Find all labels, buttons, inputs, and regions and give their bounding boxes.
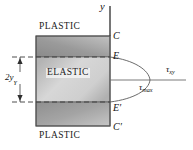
plastic-zone-top-shape xyxy=(36,36,110,57)
plastic-zone-bottom-shape xyxy=(36,102,110,126)
elastic-core-label: ELASTIC xyxy=(46,68,90,78)
dimension-2yY-label: 2yY xyxy=(5,73,17,84)
tau-xy-subscript: xy xyxy=(169,68,175,75)
y-axis-label: y xyxy=(100,2,105,13)
elastic-core-shape xyxy=(36,57,110,102)
tau-xy-label: τxy xyxy=(166,65,175,74)
plastic-zone-bottom-label: PLASTIC xyxy=(39,131,80,141)
tau-max-label: τmax xyxy=(139,83,153,92)
point-c-label: C xyxy=(113,31,120,41)
point-e-prime-label: E′ xyxy=(113,103,121,113)
dimension-subscript: Y xyxy=(14,80,17,86)
shear-stress-curve xyxy=(110,57,150,102)
figure-graphics xyxy=(0,0,193,150)
plastic-zone-top-label: PLASTIC xyxy=(39,22,80,32)
point-c-prime-label: C′ xyxy=(113,122,122,132)
dimension-arrow-up xyxy=(17,58,22,64)
point-e-label: E xyxy=(113,51,119,61)
dimension-symbol: 2y xyxy=(5,72,14,82)
dimension-arrow-down xyxy=(17,95,22,101)
tau-max-subscript: max xyxy=(142,86,152,93)
figure-canvas: PLASTIC ELASTIC PLASTIC y C E E′ C′ τxy … xyxy=(0,0,193,150)
